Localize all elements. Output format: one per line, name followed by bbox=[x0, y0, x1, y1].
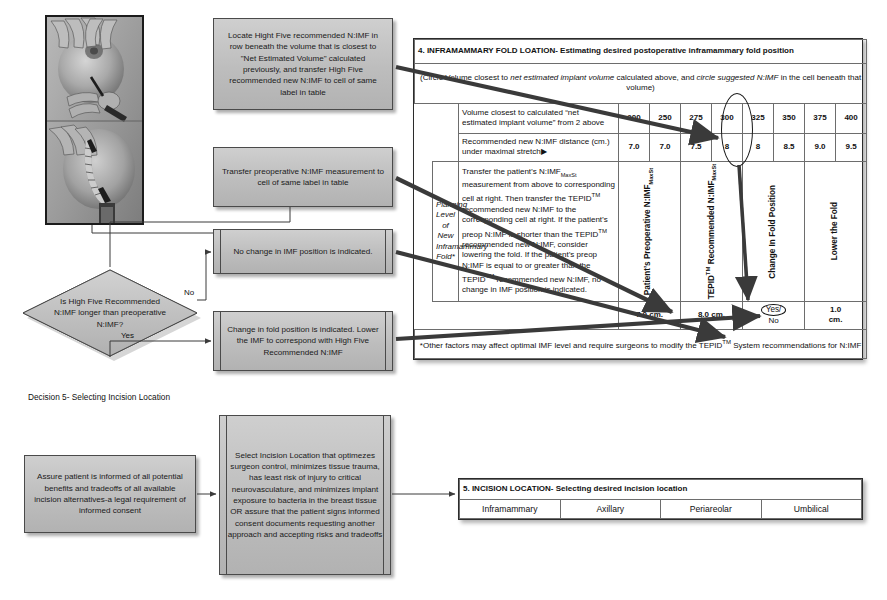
table-5-grid: 5. INCISION LOCATION- Selecting desired … bbox=[459, 479, 862, 519]
volume-cell-4[interactable]: 325 bbox=[743, 103, 774, 133]
result-no[interactable]: No bbox=[768, 316, 778, 325]
clinical-photo bbox=[45, 15, 144, 225]
result-lower-the-fold[interactable]: 1.0cm. bbox=[805, 302, 867, 330]
table4-volume-row: Volume closest to calculated “net estima… bbox=[415, 103, 867, 133]
table4-nimf-row: Recommended new N:IMF distance (cm.) und… bbox=[415, 133, 867, 161]
box-change-text: Change in fold position is indicated. Lo… bbox=[221, 324, 385, 358]
table-4-inframammary-fold: 4. INFRAMAMMARY FOLD LOATION- Estimating… bbox=[413, 38, 863, 360]
nimf-cell-5[interactable]: 8.5 bbox=[774, 133, 805, 161]
photo-graphic bbox=[47, 17, 142, 223]
colhdr-tepid-recommended: TEPIDTM Recommended N:IMFMaxSt bbox=[681, 161, 743, 301]
result-change-in-fold[interactable]: Yes/ No bbox=[743, 302, 805, 330]
colhdr-patient-preop: Patient’s Preoperative N:IMFMaxSt bbox=[619, 161, 681, 301]
box-transfer-preop: Transfer preoperative N:IMF measurement … bbox=[213, 147, 393, 207]
nimf-cell-2[interactable]: 7.5 bbox=[681, 133, 712, 161]
diagram-canvas: Locate Hight Five recommended N:IMF in r… bbox=[0, 0, 887, 600]
subtitle-part-1: (Circle Volume closest to bbox=[420, 73, 510, 82]
result-yes-circled[interactable]: Yes/ bbox=[761, 304, 787, 316]
volume-cell-7[interactable]: 400 bbox=[836, 103, 867, 133]
nimf-row-label: Recommended new N:IMF distance (cm.) und… bbox=[459, 133, 619, 161]
nimf-cell-0[interactable]: 7.0 bbox=[619, 133, 650, 161]
result-patient-preop[interactable]: 7.0 cm. bbox=[619, 302, 681, 330]
option-umbilical[interactable]: Umbilical bbox=[761, 499, 862, 519]
result-tepid-recommended[interactable]: 8.0 cm. bbox=[681, 302, 743, 330]
box-select-incision-location: Select Incision Location that optimezes … bbox=[219, 415, 391, 575]
table4-body-row: Planning Level of New Inframammary Fold*… bbox=[415, 161, 867, 301]
box-no-change-text: No change in IMF position is indicated. bbox=[233, 246, 372, 257]
box-assure-text: Assure patient is informed of all potent… bbox=[32, 471, 188, 516]
subtitle-part-2: net estimated implant volume bbox=[510, 73, 614, 82]
spacer-b1 bbox=[415, 133, 433, 161]
table5-title: 5. INCISION LOCATION- Selecting desired … bbox=[460, 480, 862, 500]
planning-level-label: Planning Level of New Inframammary Fold* bbox=[433, 161, 459, 301]
volume-cell-0[interactable]: 200 bbox=[619, 103, 650, 133]
table5-options-row: Inframammary Axillary Periareolar Umbili… bbox=[460, 499, 862, 519]
option-inframammary[interactable]: Inframammary bbox=[460, 499, 561, 519]
volume-cell-3[interactable]: 300 bbox=[712, 103, 743, 133]
colhdr-tepid-recommended-text: TEPIDTM Recommended N:IMFMaxSt bbox=[703, 164, 720, 299]
nimf-cell-4[interactable]: 8 bbox=[743, 133, 774, 161]
spacer-c1 bbox=[415, 161, 433, 301]
table4-footnote: *Other factors may affect optimal IMF le… bbox=[415, 329, 867, 358]
table-4-grid: 4. INFRAMAMMARY FOLD LOATION- Estimating… bbox=[414, 39, 867, 359]
table4-title: 4. INFRAMAMMARY FOLD LOATION- Estimating… bbox=[415, 40, 867, 64]
table5-header-row: 5. INCISION LOCATION- Selecting desired … bbox=[460, 480, 862, 500]
volume-cell-2[interactable]: 275 bbox=[681, 103, 712, 133]
decision5-caption: Decision 5- Selecting Incision Location bbox=[28, 392, 170, 402]
colhdr-change-in-fold-text: Change In Fold Position bbox=[768, 185, 779, 279]
box-change-fold: Change in fold position is indicated. Lo… bbox=[213, 311, 393, 371]
subtitle-part-3: calculated above, and bbox=[614, 73, 696, 82]
option-axillary[interactable]: Axillary bbox=[560, 499, 661, 519]
table4-result-row: 7.0 cm. 8.0 cm. Yes/ No 1.0cm. bbox=[415, 302, 867, 330]
subtitle-part-4: circle suggested N:IMF bbox=[697, 73, 779, 82]
edge-label-yes: Yes bbox=[121, 331, 134, 340]
colhdr-patient-preop-text: Patient’s Preoperative N:IMFMaxSt bbox=[643, 168, 656, 295]
decision-high-five-longer: Is High Five Recommended N:IMF longer th… bbox=[20, 267, 200, 359]
spacer-d1 bbox=[415, 302, 433, 330]
nimf-cell-3[interactable]: 8 bbox=[712, 133, 743, 161]
nimf-cell-6[interactable]: 9.0 bbox=[805, 133, 836, 161]
volume-row-label: Volume closest to calculated “net estima… bbox=[459, 103, 619, 133]
spacer-d2 bbox=[433, 302, 459, 330]
volume-cell-5[interactable]: 350 bbox=[774, 103, 805, 133]
edge-label-no: No bbox=[184, 288, 194, 297]
spacer-a1 bbox=[415, 103, 433, 133]
connector-photo-to-flow bbox=[92, 225, 213, 233]
box-select-text: Select Incision Location that optimezes … bbox=[227, 450, 383, 540]
volume-cell-1[interactable]: 250 bbox=[650, 103, 681, 133]
table4-instructions: Transfer the patient’s N:IMFMaxSt measur… bbox=[459, 161, 619, 301]
nimf-cell-1[interactable]: 7.0 bbox=[650, 133, 681, 161]
spacer-b2 bbox=[433, 133, 459, 161]
box-transfer-text: Transfer preoperative N:IMF measurement … bbox=[221, 166, 385, 189]
box-no-change: No change in IMF position is indicated. bbox=[213, 229, 393, 274]
box-locate-text: Locate Hight Five recommended N:IMF in r… bbox=[221, 30, 385, 98]
spacer-d3 bbox=[459, 302, 619, 330]
table4-subtitle: (Circle Volume closest to net estimated … bbox=[415, 63, 867, 103]
table4-footnote-row: *Other factors may affect optimal IMF le… bbox=[415, 329, 867, 358]
option-periareolar[interactable]: Periareolar bbox=[661, 499, 762, 519]
table4-subheader-row: (Circle Volume closest to net estimated … bbox=[415, 63, 867, 103]
volume-cell-6[interactable]: 375 bbox=[805, 103, 836, 133]
nimf-cell-7[interactable]: 9.5 bbox=[836, 133, 867, 161]
spacer-a2 bbox=[433, 103, 459, 133]
table4-header-row: 4. INFRAMAMMARY FOLD LOATION- Estimating… bbox=[415, 40, 867, 64]
colhdr-lower-the-fold: Lower the Fold bbox=[805, 161, 867, 301]
box-locate-high-five: Locate Hight Five recommended N:IMF in r… bbox=[213, 18, 393, 110]
box-assure-informed-consent: Assure patient is informed of all potent… bbox=[24, 455, 196, 533]
table-5-incision-location: 5. INCISION LOCATION- Selecting desired … bbox=[458, 478, 863, 520]
decision-shape bbox=[20, 267, 200, 359]
colhdr-lower-the-fold-text: Lower the Fold bbox=[830, 202, 841, 260]
colhdr-change-in-fold: Change In Fold Position bbox=[743, 161, 805, 301]
